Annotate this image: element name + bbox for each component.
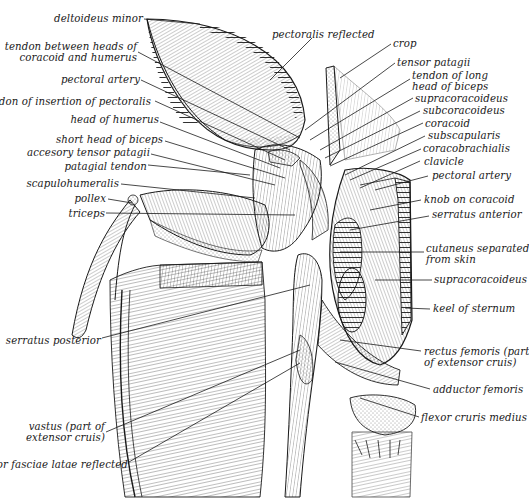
- label-coracobrachialis: coracobrachialis: [423, 143, 510, 154]
- label-scapulohumeralis: scapulohumeralis: [26, 178, 119, 189]
- label-patagial-tendon: patagial tendon: [64, 161, 147, 172]
- label-serratus-anterior: serratus anterior: [432, 209, 522, 220]
- label-pectoralis-reflected: pectoralis reflected: [272, 29, 375, 40]
- label-tendon-long-head-biceps: tendon of long head of biceps: [412, 70, 488, 92]
- label-knob-on-coracoid: knob on coracoid: [424, 194, 515, 205]
- label-pectoral-artery-left: pectoral artery: [61, 74, 140, 85]
- upper-arm-shape: [140, 190, 269, 262]
- vent-shape: [350, 395, 416, 497]
- feather-tract-shape: [110, 262, 266, 497]
- label-keel-of-sternum: keel of sternum: [433, 303, 515, 314]
- crop-shape: [326, 66, 400, 165]
- label-subscapularis: subscapularis: [428, 130, 500, 141]
- label-head-of-humerus: head of humerus: [70, 114, 159, 125]
- leader-pectoralis-reflected: [270, 38, 312, 80]
- label-serratus-posterior: serratus posterior: [6, 335, 101, 346]
- label-tensor-patagii: tensor patagii: [397, 57, 470, 68]
- label-pollex: pollex: [74, 193, 106, 204]
- label-clavicle: clavicle: [424, 156, 464, 167]
- leader-crop: [340, 44, 391, 78]
- label-accesory-tensor-patagii: accesory tensor patagii: [27, 147, 150, 158]
- label-deltoideus-minor: deltoideus minor: [54, 13, 143, 24]
- label-tensor-fasciae-latae: tensor fasciae latae reflected: [0, 459, 128, 470]
- label-flexor-cruris-medius: flexor cruris medius: [421, 412, 527, 423]
- label-subcoracoideus: subcoracoideus: [423, 105, 505, 116]
- label-supracoracoideus-bottom: supracoracoideus: [434, 274, 527, 285]
- label-tendon-insertion-pectoralis: tendon of insertion of pectoralis: [0, 96, 151, 107]
- label-tendon-between-heads: tendon between heads of coracoid and hum…: [5, 41, 137, 63]
- label-crop: crop: [393, 38, 417, 49]
- label-adductor-femoris: adductor femoris: [433, 384, 523, 395]
- leader-patagial-tendon: [148, 165, 250, 175]
- label-supracoracoideus-top: supracoracoideus: [415, 93, 508, 104]
- label-short-head-biceps: short head of biceps: [56, 134, 163, 145]
- label-triceps: triceps: [69, 208, 105, 219]
- label-vastus: vastus (part of extensor cruis): [26, 421, 105, 443]
- label-rectus-femoris: rectus femoris (part of extensor cruis): [424, 346, 529, 368]
- label-coracoid: coracoid: [425, 118, 470, 129]
- label-cutaneus: cutaneus separated from skin: [426, 243, 529, 265]
- label-pectoral-artery-right: pectoral artery: [432, 170, 511, 181]
